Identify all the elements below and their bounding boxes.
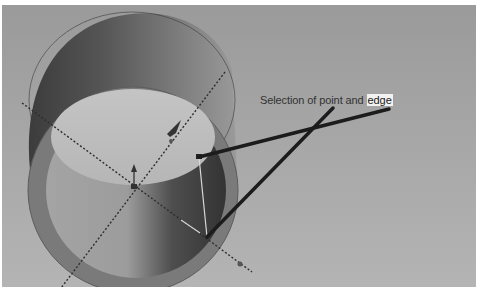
selection-annotation: Selection of point and edge bbox=[260, 94, 393, 106]
annotation-highlight: edge bbox=[367, 94, 393, 106]
annotation-text: Selection of point and bbox=[260, 94, 364, 106]
cylinder-model[interactable] bbox=[2, 5, 476, 287]
3d-viewport[interactable]: Selection of point and edge bbox=[2, 5, 476, 287]
